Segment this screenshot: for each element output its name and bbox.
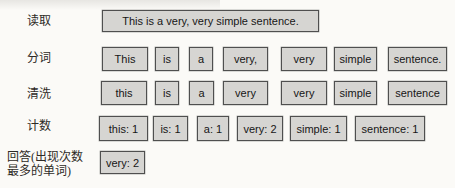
tokenize-word-box: very [281, 47, 327, 71]
step-label-read: 读取 [27, 14, 87, 28]
word-count-flow-diagram: 读取This is a very, very simple sentence.分… [0, 0, 455, 188]
tokenize-word-box: is [155, 47, 179, 71]
count-word-box: this: 1 [99, 116, 148, 141]
step-label-tokenize: 分词 [27, 51, 87, 65]
scan-artifact [0, 0, 220, 10]
count-word-box: simple: 1 [290, 116, 347, 141]
clean-word-box: is [155, 81, 179, 105]
clean-word-box: this [101, 81, 147, 105]
count-word-box: sentence: 1 [355, 116, 425, 141]
count-word-box: very: 2 [237, 116, 283, 141]
clean-word-box: very [223, 81, 268, 105]
read-word-box: This is a very, very simple sentence. [102, 10, 319, 32]
clean-word-box: a [189, 81, 214, 105]
clean-word-box: very [281, 81, 327, 105]
tokenize-word-box: sentence. [388, 47, 447, 71]
tokenize-word-box: very, [223, 47, 268, 71]
tokenize-word-box: a [189, 47, 213, 71]
count-word-box: a: 1 [197, 116, 229, 141]
count-word-box: is: 1 [153, 116, 188, 141]
tokenize-word-box: This [102, 47, 148, 71]
step-label-answer: 回答(出现次数 最多的单词) [7, 150, 95, 178]
step-label-clean: 清洗 [27, 87, 87, 101]
clean-word-box: simple [334, 81, 377, 105]
step-label-count: 计数 [27, 119, 87, 133]
tokenize-word-box: simple [334, 47, 377, 71]
answer-word-box: very: 2 [100, 151, 145, 174]
clean-word-box: sentence [388, 81, 447, 105]
